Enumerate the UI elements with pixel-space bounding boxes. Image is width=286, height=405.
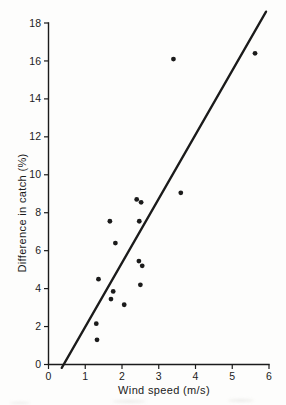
y-tick-label: 4 (35, 282, 41, 294)
data-point (122, 302, 127, 307)
y-axis-title: Difference in catch (%) (16, 153, 28, 272)
plot-canvas: 0246810121416180123456 (0, 0, 286, 405)
data-point (137, 259, 142, 264)
data-point (96, 277, 101, 282)
scan-artifact (112, 400, 146, 403)
data-point (95, 337, 100, 342)
x-tick-label: 4 (193, 370, 199, 382)
data-point (134, 197, 139, 202)
data-point (171, 57, 176, 62)
x-tick-label: 1 (82, 370, 88, 382)
data-point (109, 297, 114, 302)
axes-frame (49, 23, 270, 365)
y-tick-label: 6 (35, 244, 41, 256)
y-tick-label: 2 (35, 320, 41, 332)
data-point (140, 263, 145, 268)
y-tick-label: 0 (35, 358, 41, 370)
data-point (107, 219, 112, 224)
x-tick-label: 3 (156, 370, 162, 382)
data-point (111, 289, 116, 294)
x-tick-label: 6 (266, 370, 272, 382)
scan-artifact (228, 399, 254, 402)
x-axis-title: Wind speed (m/s) (118, 384, 210, 396)
x-tick-label: 2 (119, 370, 125, 382)
data-point (253, 51, 258, 56)
y-tick-label: 16 (29, 55, 41, 67)
y-tick-label: 10 (29, 168, 41, 180)
data-point (94, 321, 99, 326)
fit-line (62, 12, 266, 368)
data-point (178, 190, 183, 195)
scan-artifact (10, 402, 30, 404)
y-tick-label: 12 (29, 130, 41, 142)
data-point (138, 282, 143, 287)
x-tick-label: 5 (229, 370, 235, 382)
data-point (113, 241, 118, 246)
scatter-figure: 0246810121416180123456 Difference in cat… (0, 0, 286, 405)
y-tick-label: 18 (29, 17, 41, 29)
data-point (137, 219, 142, 224)
x-tick-label: 0 (46, 370, 52, 382)
y-tick-label: 8 (35, 206, 41, 218)
data-point (139, 200, 144, 205)
y-tick-label: 14 (29, 92, 41, 104)
